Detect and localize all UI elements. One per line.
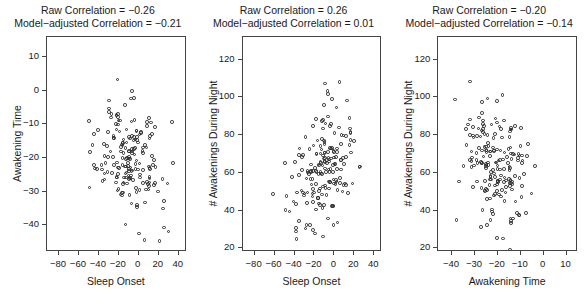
data-point xyxy=(316,196,320,200)
data-point xyxy=(107,110,111,114)
data-point xyxy=(520,195,524,199)
y-tick-label: 20 xyxy=(420,242,431,252)
x-tick-label: 40 xyxy=(172,259,183,269)
data-point xyxy=(88,186,92,190)
data-point xyxy=(484,149,488,153)
x-tick-label: 10 xyxy=(560,259,571,269)
data-point xyxy=(116,78,120,82)
data-point xyxy=(337,126,341,130)
data-point xyxy=(125,182,129,186)
data-point xyxy=(489,174,493,178)
data-point xyxy=(116,123,120,127)
x-tick-label: −40 xyxy=(443,259,459,269)
data-point xyxy=(118,119,122,123)
y-tick-label: 100 xyxy=(414,91,430,101)
data-point xyxy=(468,118,472,122)
data-point xyxy=(455,218,459,222)
data-point xyxy=(514,200,518,204)
data-point xyxy=(494,117,498,121)
data-point xyxy=(125,128,129,132)
data-point xyxy=(481,208,485,212)
data-point xyxy=(109,116,113,120)
data-point xyxy=(335,150,339,154)
data-point xyxy=(457,180,461,184)
data-point xyxy=(341,190,345,194)
data-point xyxy=(138,176,142,180)
y-tick-label: 80 xyxy=(224,129,235,139)
data-point xyxy=(518,176,522,180)
data-point xyxy=(323,167,327,171)
x-tick xyxy=(58,251,59,255)
x-tick xyxy=(118,251,119,255)
data-point xyxy=(495,236,499,240)
x-tick xyxy=(138,251,139,255)
data-point xyxy=(127,167,131,171)
scatter-plot-figure: Raw Correlation = −0.26Model−adjusted Co… xyxy=(0,0,587,305)
data-point xyxy=(338,80,342,84)
data-point xyxy=(300,168,304,172)
x-tick xyxy=(451,251,452,255)
data-point xyxy=(314,208,318,212)
data-point xyxy=(290,175,294,179)
data-point xyxy=(293,160,297,164)
data-point xyxy=(148,177,152,181)
raw-correlation-label: Raw Correlation = −0.26 xyxy=(0,4,196,17)
data-point xyxy=(330,204,334,208)
data-point xyxy=(146,182,150,186)
data-point xyxy=(148,137,152,141)
data-point xyxy=(134,162,138,166)
data-point xyxy=(133,118,137,122)
plot-area xyxy=(437,36,577,251)
data-point xyxy=(341,156,345,160)
data-point xyxy=(121,156,125,160)
data-point xyxy=(326,217,330,221)
data-point xyxy=(501,93,505,97)
data-point xyxy=(127,155,131,159)
x-tick xyxy=(373,251,374,255)
data-point xyxy=(358,165,362,169)
data-point xyxy=(103,172,107,176)
y-tick-label: 40 xyxy=(224,205,235,215)
data-point xyxy=(322,103,326,107)
data-point xyxy=(137,232,141,236)
data-point xyxy=(520,161,524,165)
data-point xyxy=(481,127,485,131)
data-point xyxy=(111,155,115,159)
data-point xyxy=(493,132,497,136)
data-point xyxy=(124,223,128,227)
data-point xyxy=(128,137,132,141)
data-point xyxy=(327,160,331,164)
data-point xyxy=(91,143,95,147)
x-tick xyxy=(313,251,314,255)
data-point xyxy=(323,151,327,155)
x-tick xyxy=(497,251,498,255)
x-tick xyxy=(520,251,521,255)
data-point xyxy=(125,141,129,145)
data-point xyxy=(128,177,132,181)
panel-title: Raw Correlation = −0.26Model−adjusted Co… xyxy=(0,4,196,29)
data-point xyxy=(132,147,136,151)
y-tick-label: 60 xyxy=(224,167,235,177)
data-point xyxy=(120,143,124,147)
panel-title: Raw Correlation = −0.20Model−adjusted Co… xyxy=(391,4,587,29)
x-tick xyxy=(78,251,79,255)
x-axis-label: Awakening Time xyxy=(437,275,577,287)
data-point xyxy=(506,161,510,165)
data-point xyxy=(502,167,506,171)
model-adjusted-correlation-label: Model−adjusted Correlation = 0.01 xyxy=(196,17,392,30)
data-point xyxy=(132,96,136,100)
data-point xyxy=(288,210,292,214)
data-point xyxy=(323,156,327,160)
data-point xyxy=(489,218,493,222)
data-point xyxy=(329,167,333,171)
data-point xyxy=(329,157,333,161)
data-point xyxy=(491,212,495,216)
data-point xyxy=(462,164,466,168)
data-point xyxy=(453,98,457,102)
data-point xyxy=(314,117,318,121)
x-tick-label: 20 xyxy=(348,259,359,269)
data-point xyxy=(130,120,134,124)
data-point xyxy=(519,144,523,148)
data-point xyxy=(88,150,92,154)
data-point xyxy=(334,155,338,159)
